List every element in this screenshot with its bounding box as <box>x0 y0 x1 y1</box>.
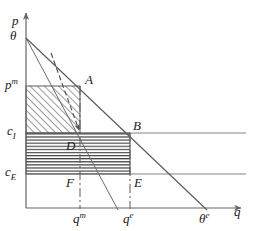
tick-ci-sub: I <box>13 131 16 141</box>
point-d-label: D <box>66 139 75 152</box>
tick-theta-e-sup: e <box>205 210 209 220</box>
tick-qm: qm <box>73 211 86 225</box>
price-axis-label: p <box>12 14 19 27</box>
tick-ce: cE <box>5 165 16 181</box>
economics-diagram: p q θ pm cI cE qm qe θe A B D F E <box>0 0 258 231</box>
point-f-label: F <box>66 176 74 189</box>
tick-pm: pm <box>5 77 18 91</box>
tick-pm-sup: m <box>12 76 18 86</box>
tick-ce-sub: E <box>11 172 16 182</box>
tick-qm-sup: m <box>80 210 86 220</box>
tick-theta: θ <box>10 29 16 42</box>
tick-qe-sup: e <box>130 210 134 220</box>
point-e-label: E <box>134 176 142 189</box>
tick-theta-e: θe <box>199 211 209 225</box>
tick-qe: qe <box>123 211 133 225</box>
tick-ci: cI <box>7 124 16 140</box>
quantity-axis-label: q <box>234 205 241 218</box>
point-a-label: A <box>85 73 93 86</box>
diagram-canvas <box>0 0 258 231</box>
entry-deterrence-rectangle <box>26 133 130 174</box>
point-b-label: B <box>133 119 141 132</box>
